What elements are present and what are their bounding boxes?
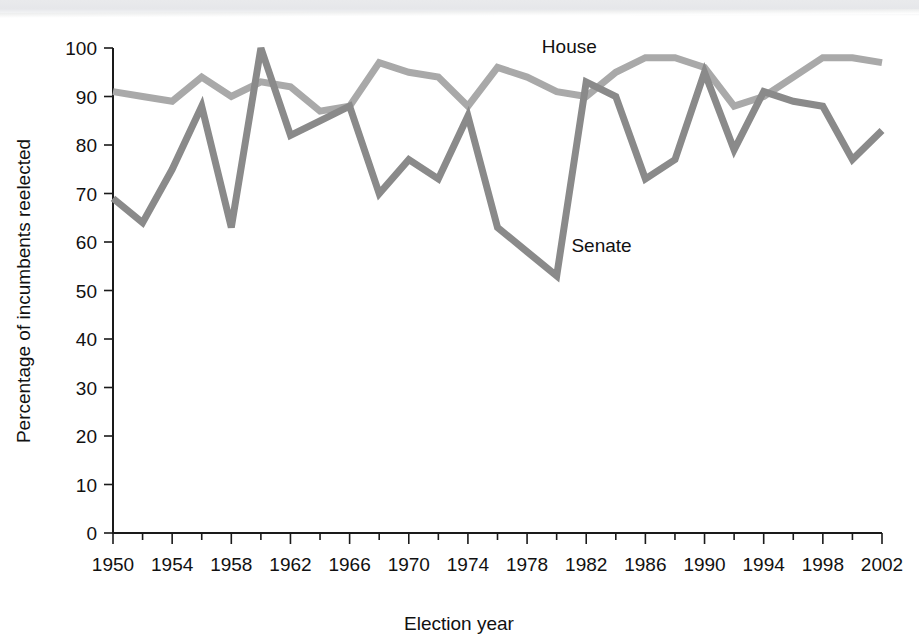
y-tick-label: 90 <box>76 87 97 108</box>
chart-svg: 0102030405060708090100 19501954195819621… <box>0 0 919 642</box>
y-tick-label: 80 <box>76 135 97 156</box>
x-tick-label: 1990 <box>683 554 725 575</box>
x-tick-label: 1950 <box>92 554 134 575</box>
axis-lines <box>113 48 882 533</box>
axes-group <box>113 48 882 533</box>
x-tick-label: 1970 <box>388 554 430 575</box>
x-axis-tick-labels: 1950195419581962196619701974197819821986… <box>92 554 903 575</box>
data-series-group <box>113 48 882 276</box>
x-tick-label: 1998 <box>802 554 844 575</box>
y-axis-ticks <box>104 48 113 533</box>
x-axis-title: Election year <box>404 613 515 634</box>
y-tick-label: 40 <box>76 329 97 350</box>
y-tick-label: 10 <box>76 475 97 496</box>
y-axis-title: Percentage of incumbents reelected <box>13 139 34 443</box>
x-tick-label: 2002 <box>861 554 903 575</box>
x-tick-label: 1986 <box>624 554 666 575</box>
y-tick-label: 20 <box>76 426 97 447</box>
figure-page: 0102030405060708090100 19501954195819621… <box>0 0 919 642</box>
line-chart: 0102030405060708090100 19501954195819621… <box>0 0 919 642</box>
x-tick-label: 1974 <box>447 554 490 575</box>
y-tick-label: 30 <box>76 378 97 399</box>
y-axis-tick-labels: 0102030405060708090100 <box>65 38 97 544</box>
y-tick-label: 50 <box>76 281 97 302</box>
x-tick-label: 1994 <box>743 554 786 575</box>
x-tick-label: 1962 <box>269 554 311 575</box>
x-tick-label: 1966 <box>328 554 370 575</box>
series-label-senate: Senate <box>571 235 631 256</box>
series-line-senate <box>113 48 882 276</box>
x-axis-ticks <box>113 533 882 544</box>
x-tick-label: 1978 <box>506 554 548 575</box>
y-tick-label: 70 <box>76 184 97 205</box>
x-tick-label: 1982 <box>565 554 607 575</box>
y-tick-label: 60 <box>76 232 97 253</box>
x-tick-label: 1954 <box>151 554 194 575</box>
y-tick-label: 0 <box>86 523 97 544</box>
series-label-house: House <box>542 36 597 57</box>
series-line-house <box>113 58 882 111</box>
x-tick-label: 1958 <box>210 554 252 575</box>
y-tick-label: 100 <box>65 38 97 59</box>
